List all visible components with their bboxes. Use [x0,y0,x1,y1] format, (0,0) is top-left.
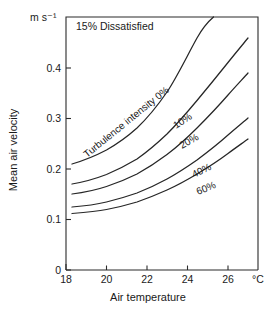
x-axis-unit-label: °C [252,273,264,285]
y-axis-unit-label: m s⁻¹ [30,11,57,23]
x-tick-label-22: 22 [141,273,153,285]
chart-canvas: 0.4 0.3 0.2 0.1 0 18 20 22 24 26 m s⁻¹ °… [0,0,279,315]
curve-label-turbulence-60: 60% [195,179,218,197]
x-axis-ticks [66,264,228,270]
y-tick-label-0.2: 0.2 [46,163,61,175]
curve-label-turbulence-0: Turbulence intensity 0% [81,84,171,160]
x-axis-title: Air temperature [110,291,186,303]
x-tick-label-18: 18 [60,273,72,285]
x-tick-label-26: 26 [222,273,234,285]
x-tick-label-20: 20 [101,273,113,285]
x-axis-tick-labels: 18 20 22 24 26 [60,273,234,285]
y-tick-label-0.4: 0.4 [46,62,61,74]
plot-annotation-dissatisfied: 15% Dissatisfied [76,20,154,32]
curve-label-turbulence-10: 10% [171,110,194,130]
y-axis-tick-labels: 0.4 0.3 0.2 0.1 0 [46,62,61,276]
chart-figure: 0.4 0.3 0.2 0.1 0 18 20 22 24 26 m s⁻¹ °… [0,0,279,315]
x-tick-label-24: 24 [182,273,194,285]
y-axis-ticks [66,68,71,270]
curve-turbulence-10 [72,38,248,184]
data-curves [72,17,248,214]
y-tick-label-0.3: 0.3 [46,112,61,124]
y-axis-title: Mean air velocity [7,108,19,191]
curve-label-turbulence-20: 20% [178,131,201,151]
curve-label-turbulence-40: 40% [190,161,213,180]
y-tick-label-0.1: 0.1 [46,213,61,225]
